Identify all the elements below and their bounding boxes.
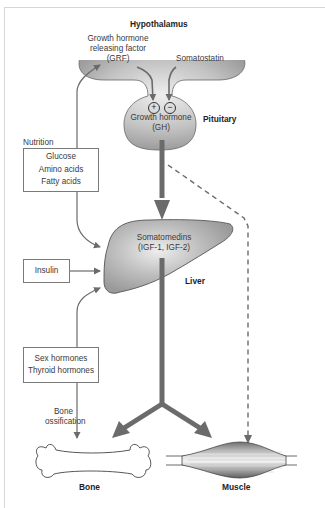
label-bone: Bone	[79, 482, 100, 492]
label-pituitary: Pituitary	[203, 114, 237, 124]
label-grf: Growth hormone releasing factor (GRF)	[83, 34, 153, 64]
label-liver: Liver	[185, 276, 205, 286]
nutrition-box: Glucose Amino acids Fatty acids	[23, 148, 99, 192]
hypothalamus-pituitary-shape	[79, 58, 245, 150]
label-gh: Growth hormone (GH)	[128, 113, 194, 133]
label-hypothalamus: Hypothalamus	[130, 19, 188, 29]
label-bone-ossification: Bone ossification	[45, 407, 73, 427]
liver-shape	[104, 220, 233, 294]
label-somatostatin: Somatostatin	[176, 54, 224, 64]
label-somatomedins: Somatomedins (IGF-1, IGF-2)	[126, 233, 202, 253]
bone-shape	[36, 444, 151, 477]
label-nutrition: Nutrition	[23, 138, 54, 148]
label-muscle: Muscle	[222, 482, 250, 492]
insulin-box: Insulin	[23, 259, 70, 283]
hormones-box: Sex hormones Thyroid hormones	[23, 347, 99, 383]
